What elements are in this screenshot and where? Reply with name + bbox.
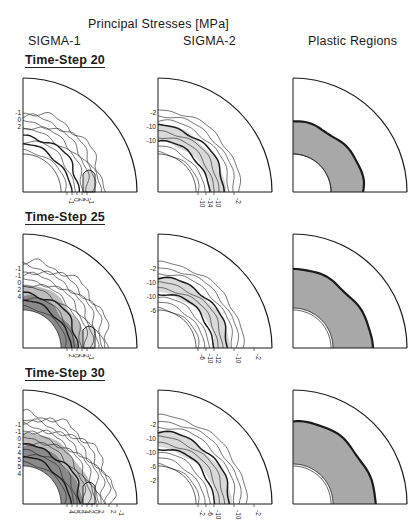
contour-label: -10 <box>147 293 157 300</box>
contour-label: -1 <box>15 272 21 279</box>
contour-label: -10 <box>215 510 222 520</box>
contour-label: 5 <box>17 463 21 470</box>
contour-label: -12 <box>215 354 222 364</box>
contour-label: -1 <box>118 510 125 516</box>
contour-label: -2 <box>150 265 156 272</box>
contour-label: 2 <box>17 123 21 130</box>
contour-label: -6 <box>150 463 156 470</box>
contour-label: -2 <box>150 421 156 428</box>
contour-label: -10 <box>235 354 242 364</box>
contour-label: -10 <box>147 435 157 442</box>
contour-label: -6 <box>199 354 206 360</box>
contour-label: -6 <box>207 510 214 516</box>
row-label-timestep-30: Time-Step 30 <box>25 366 105 381</box>
panel-sigma2-timestep-20: -2-10-10-10-14-10-2 <box>144 74 288 210</box>
contour-label: -10 <box>147 279 157 286</box>
contour-label: -1 <box>15 265 21 272</box>
contour-label: 2 <box>17 442 21 449</box>
column-header-sigma2: SIGMA-2 <box>183 34 236 48</box>
contour-label: -10 <box>147 137 157 144</box>
contour-label: 0 <box>17 116 21 123</box>
contour-label: 5 <box>17 456 21 463</box>
contour-label: 2 <box>110 510 117 514</box>
panel-plastic-timestep-20 <box>279 74 420 210</box>
row-label-timestep-20: Time-Step 20 <box>25 53 105 68</box>
contour-label: -2 <box>255 354 262 360</box>
contour-label: 2 <box>98 510 105 514</box>
panel-sigma1-timestep-20: -102-1022-1 <box>9 74 153 210</box>
contour-label: -10 <box>147 449 157 456</box>
contour-label: -14 <box>207 198 214 208</box>
contour-label: -10 <box>147 123 157 130</box>
column-header-plastic: Plastic Regions <box>308 34 397 48</box>
contour-label: 4 <box>17 449 21 456</box>
panel-plastic-timestep-30 <box>279 386 420 522</box>
row-label-timestep-25: Time-Step 25 <box>25 210 105 225</box>
contour-label: 4 <box>17 470 21 477</box>
contour-label: -2 <box>235 198 242 204</box>
contour-label: 4 <box>17 293 21 300</box>
contour-label: -1 <box>15 421 21 428</box>
contour-label: -2 <box>255 510 262 516</box>
contour-label: -2 <box>150 109 156 116</box>
contour-label: 0 <box>17 435 21 442</box>
contour-label: -2 <box>199 510 206 516</box>
contour-label: -1 <box>15 428 21 435</box>
panel-sigma2-timestep-30: -2-10-10-6-2-2-6-10-10-2 <box>144 386 288 522</box>
contour-label: -1 <box>15 109 21 116</box>
panel-sigma1-timestep-30: -1-102455445542022-1 <box>9 386 153 522</box>
contour-label: -6 <box>150 307 156 314</box>
contour-label: -1 <box>88 354 95 360</box>
column-header-sigma1: SIGMA-1 <box>28 34 81 48</box>
contour-label: -10 <box>235 510 242 520</box>
contour-label: -10 <box>199 198 206 208</box>
panel-sigma2-timestep-25: -2-10-10-6-6-10-12-10-2 <box>144 230 288 366</box>
contour-label: 0 <box>17 279 21 286</box>
contour-label: -2 <box>150 477 156 484</box>
panel-sigma1-timestep-25: -1-10242022-1 <box>9 230 153 366</box>
figure-title: Principal Stresses [MPa] <box>88 17 229 31</box>
contour-label: -1 <box>88 198 95 204</box>
panel-plastic-timestep-25 <box>279 230 420 366</box>
contour-label: -10 <box>215 198 222 208</box>
contour-label: -10 <box>207 354 214 364</box>
contour-label: 2 <box>17 286 21 293</box>
